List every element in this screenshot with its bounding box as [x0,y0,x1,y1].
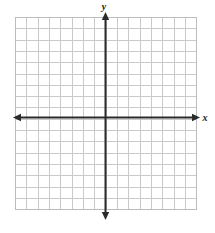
y-axis-label: y [101,1,107,12]
coordinate-grid-svg: y x [0,0,215,233]
x-axis-label: x [202,112,208,123]
coordinate-grid-figure: y x [0,0,215,233]
